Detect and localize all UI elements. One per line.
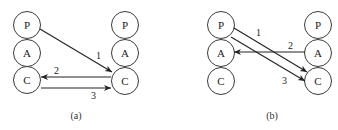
node-left-a: A	[14, 40, 41, 67]
caption-b: (b)	[266, 110, 278, 122]
caption-a: (a)	[70, 110, 81, 122]
node-left-p: P	[14, 12, 41, 39]
svg-text:P: P	[24, 19, 30, 31]
edge-1-label: 1	[256, 27, 261, 38]
svg-text:C: C	[121, 75, 128, 87]
svg-text:C: C	[217, 75, 224, 87]
svg-text:C: C	[23, 74, 30, 86]
edge-3-arrow	[231, 37, 305, 81]
diagram-b: P A C P A C 1 2 3 (b)	[208, 12, 332, 123]
svg-text:A: A	[217, 47, 225, 59]
svg-text:P: P	[315, 19, 321, 31]
svg-text:P: P	[218, 19, 224, 31]
svg-text:C: C	[314, 75, 321, 87]
edge-3-label: 3	[91, 90, 96, 101]
node-right-c: C	[305, 68, 332, 95]
node-left-c: C	[208, 68, 235, 95]
svg-text:A: A	[121, 47, 129, 59]
edge-3-label: 3	[282, 75, 287, 86]
edge-1-arrow	[234, 28, 307, 72]
edge-2-label: 2	[54, 65, 59, 76]
edge-2-label: 2	[288, 40, 293, 51]
node-right-p: P	[305, 12, 332, 39]
node-left-p: P	[208, 12, 235, 39]
edge-1-arrow	[40, 29, 112, 72]
node-left-a: A	[208, 40, 235, 67]
node-right-a: A	[112, 40, 139, 67]
edge-1-label: 1	[96, 50, 101, 61]
diagram-canvas: P A C P A C 1 2 3 (a)	[0, 0, 338, 130]
node-left-c: C	[14, 67, 41, 94]
diagram-a: P A C P A C 1 2 3 (a)	[14, 12, 139, 123]
svg-text:A: A	[314, 47, 322, 59]
node-right-a: A	[305, 40, 332, 67]
node-right-c: C	[112, 68, 139, 95]
svg-text:P: P	[122, 19, 128, 31]
svg-text:A: A	[23, 47, 31, 59]
node-right-p: P	[112, 12, 139, 39]
